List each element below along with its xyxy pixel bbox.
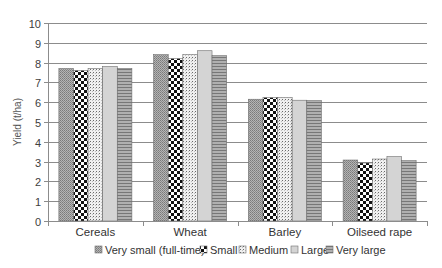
legend-swatch: [239, 246, 246, 253]
category-label: Oilseed rape: [347, 226, 412, 238]
bar-wheat-very-small-full-time: [154, 55, 169, 221]
legend-label: Large: [301, 244, 329, 256]
x-axis-labels: CerealsWheatBarleyOilseed rape: [76, 226, 413, 238]
category-label: Wheat: [174, 226, 208, 238]
legend-swatch: [200, 246, 207, 253]
bar-cereals-large: [103, 67, 118, 221]
legend-item: Very large: [326, 244, 386, 256]
bar-barley-large: [292, 100, 307, 221]
bar-oilseed-rape-very-small-full-time: [343, 160, 358, 221]
bar-cereals-very-small-full-time: [59, 69, 74, 221]
bar-cereals-medium: [88, 69, 103, 221]
bar-barley-very-small-full-time: [248, 99, 263, 221]
category-label: Barley: [269, 226, 302, 238]
bar-barley-medium: [278, 98, 293, 221]
bar-cereals-small: [73, 71, 88, 221]
bar-wheat-very-large: [212, 56, 227, 221]
bar-wheat-medium: [183, 55, 198, 221]
bar-oilseed-rape-small: [358, 163, 373, 221]
y-tick-label: 8: [35, 58, 41, 70]
legend-swatch: [291, 246, 298, 253]
legend-item: Small: [200, 244, 238, 256]
category-label: Cereals: [76, 226, 116, 238]
y-tick-label: 1: [35, 196, 41, 208]
y-tick-label: 2: [35, 176, 41, 188]
legend-swatch: [95, 246, 102, 253]
legend-label: Very large: [336, 244, 386, 256]
legend-item: Medium: [239, 244, 288, 256]
legend-item: Large: [291, 244, 329, 256]
bar-cereals-very-large: [117, 69, 132, 221]
y-tick-label: 5: [35, 117, 41, 129]
bar-oilseed-rape-large: [387, 157, 402, 221]
bar-oilseed-rape-medium: [372, 159, 387, 221]
legend-label: Small: [210, 244, 238, 256]
bar-chart: Yield (t/ha) 012345678910 CerealsWheatBa…: [0, 0, 442, 268]
legend: Very small (full-time)SmallMediumLargeVe…: [95, 244, 386, 256]
y-tick-label: 4: [35, 137, 41, 149]
y-tick-label: 9: [35, 38, 41, 50]
bar-wheat-large: [197, 51, 212, 221]
legend-swatch: [326, 246, 333, 253]
y-axis-ticks: 012345678910: [29, 18, 48, 228]
legend-label: Very small (full-time): [105, 244, 205, 256]
y-tick-label: 10: [29, 18, 41, 30]
bar-barley-very-large: [307, 101, 322, 221]
legend-label: Medium: [249, 244, 288, 256]
bars: [59, 51, 416, 221]
bar-oilseed-rape-very-large: [402, 161, 417, 221]
y-tick-label: 7: [35, 77, 41, 89]
bar-barley-small: [263, 98, 278, 221]
y-tick-label: 3: [35, 157, 41, 169]
bar-wheat-small: [168, 59, 183, 221]
y-axis-title: Yield (t/ha): [12, 98, 23, 146]
y-tick-label: 6: [35, 97, 41, 109]
legend-item: Very small (full-time): [95, 244, 205, 256]
y-tick-label: 0: [35, 216, 41, 228]
